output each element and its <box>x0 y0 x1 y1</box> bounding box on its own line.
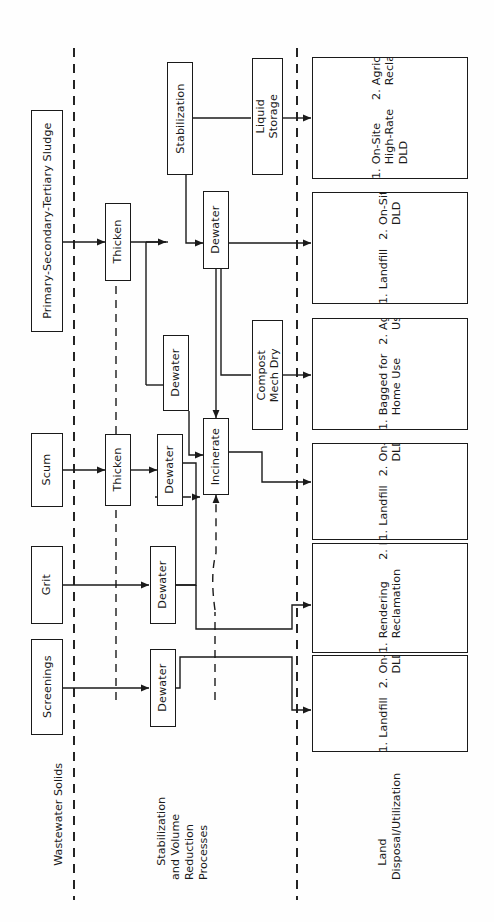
outcome-box-grit[interactable]: 1. Rendering Reclamation 2. Landfill <box>312 543 468 653</box>
process-box-dewater-grit[interactable]: Dewater <box>150 546 176 624</box>
list-item-number: 1. <box>377 529 390 540</box>
list-item: 1. Landfill <box>377 697 390 752</box>
process-label-liquid-storage: Liquid Storage <box>254 94 280 138</box>
list-item: 2. On-Site DLD <box>377 192 404 240</box>
list-item: 1. On-Site High-Rate DLD <box>370 109 410 179</box>
process-box-dewater-mid[interactable]: Dewater <box>163 335 189 411</box>
source-label-scum: Scum <box>40 454 53 486</box>
flow-diagram-canvas: Primary-Secondary-Tertiary Sludge Scum G… <box>0 0 494 922</box>
outcome-liquid-list: 1. On-Site High-Rate DLD 2. Agricultural… <box>370 57 410 179</box>
list-item-number: 1. <box>377 741 390 752</box>
list-item-number: 2. <box>377 549 390 560</box>
source-label-sludge: Primary-Secondary-Tertiary Sludge <box>40 123 53 319</box>
list-item-number: 1. <box>370 168 383 179</box>
zone-label-land-disposal: Land Disposal/Utilization <box>376 773 403 880</box>
outcome-box-compost[interactable]: 1. Bagged for Home Use 2. Agricultural U… <box>312 318 468 430</box>
process-box-dewater-stabilized[interactable]: Dewater <box>203 191 229 269</box>
list-item-number: 2. <box>377 229 390 240</box>
list-item-text: Landfill <box>377 543 390 545</box>
list-item-text: Bagged for Home Use <box>377 354 404 416</box>
process-box-thicken-scum[interactable]: Thicken <box>105 434 131 506</box>
zone-label-stabilization: Stabilization and Volume Reduction Proce… <box>155 797 210 880</box>
list-item: 2. On-Site DLD <box>377 655 404 688</box>
source-box-screenings[interactable]: Screenings <box>31 639 63 735</box>
zone-caption-stabilization: Stabilization and Volume Reduction Proce… <box>141 797 225 880</box>
process-box-stabilization[interactable]: Stabilization <box>167 62 193 175</box>
process-box-dewater-screenings[interactable]: Dewater <box>150 649 176 727</box>
outcome-box-ash[interactable]: 1. Landfill 2. On-Site DLD <box>312 443 468 540</box>
process-label-thicken-scum: Thicken <box>111 448 124 492</box>
outcome-box-dewatered[interactable]: 1. Landfill 2. On-Site DLD 3. Agricultur… <box>312 192 468 304</box>
list-item-text: On-Site DLD <box>377 192 404 225</box>
list-item-text: Rendering Reclamation <box>377 569 404 638</box>
list-item-number: 2. <box>377 334 390 345</box>
list-item-text: On-Site DLD <box>377 443 404 461</box>
list-item: 1. Bagged for Home Use <box>377 354 404 430</box>
list-item: 2. Agricultural Reclamation <box>370 57 397 100</box>
process-label-stabilization: Stabilization <box>173 83 186 153</box>
process-label-dewater-stabilized: Dewater <box>209 206 222 254</box>
outcome-box-screenings[interactable]: 1. Landfill 2. On-Site DLD <box>312 655 468 752</box>
outcome-compost-list: 1. Bagged for Home Use 2. Agricultural U… <box>377 318 404 430</box>
process-label-compost-mech-dry: Compost Mech Dry <box>254 348 280 402</box>
list-item: 2. Landfill <box>377 543 390 560</box>
list-item-text: Agricultural Reclamation <box>370 57 397 85</box>
list-item-text: On-Site DLD <box>377 655 404 673</box>
list-item-number: 1. <box>377 419 390 430</box>
source-box-scum[interactable]: Scum <box>31 433 63 507</box>
process-box-liquid-storage[interactable]: Liquid Storage <box>252 58 283 175</box>
list-item: 1. Landfill <box>377 485 390 540</box>
list-item-number: 2. <box>377 465 390 476</box>
process-label-thicken-sludge: Thicken <box>111 220 124 264</box>
outcome-grit-list: 1. Rendering Reclamation 2. Landfill <box>377 543 404 653</box>
process-label-dewater-screenings: Dewater <box>156 664 169 712</box>
process-label-dewater-grit: Dewater <box>156 561 169 609</box>
zone-label-wastewater-solids: Wastewater Solids <box>52 763 65 866</box>
list-item: 1. Rendering Reclamation <box>377 569 404 653</box>
list-item-text: Landfill <box>377 485 390 526</box>
list-item-number: 1. <box>377 642 390 653</box>
list-item-number: 2. <box>370 89 383 100</box>
zone-caption-wastewater-solids: Wastewater Solids <box>38 763 80 880</box>
list-item-number: 1. <box>377 293 390 304</box>
process-box-dewater-scum[interactable]: Dewater <box>157 434 183 506</box>
list-item: 2. Agricultural Use <box>377 318 404 345</box>
source-label-grit: Grit <box>40 574 53 595</box>
list-item-text: Agricultural Use <box>377 318 404 330</box>
outcome-box-liquid[interactable]: 1. On-Site High-Rate DLD 2. Agricultural… <box>312 57 468 179</box>
list-item: 1. Landfill <box>377 249 390 304</box>
process-label-dewater-mid: Dewater <box>169 349 182 397</box>
outcome-screenings-list: 1. Landfill 2. On-Site DLD <box>377 655 404 752</box>
list-item: 2. On-Site DLD <box>377 443 404 476</box>
process-label-incinerate: Incinerate <box>209 428 222 485</box>
process-box-thicken-sludge[interactable]: Thicken <box>105 203 131 281</box>
list-item-text: On-Site High-Rate DLD <box>370 109 410 164</box>
process-box-incinerate[interactable]: Incinerate <box>203 418 229 495</box>
process-box-compost-mech-dry[interactable]: Compost Mech Dry <box>252 320 283 430</box>
list-item-number: 2. <box>377 677 390 688</box>
outcome-ash-list: 1. Landfill 2. On-Site DLD <box>377 443 404 540</box>
source-label-screenings: Screenings <box>40 656 53 719</box>
process-label-dewater-scum: Dewater <box>163 446 176 494</box>
list-item-text: Landfill <box>377 697 390 738</box>
outcome-dewatered-list: 1. Landfill 2. On-Site DLD 3. Agricultur… <box>377 192 404 304</box>
list-item-text: Landfill <box>377 249 390 290</box>
zone-caption-land-disposal: Land Disposal/Utilization <box>362 773 418 880</box>
source-box-grit[interactable]: Grit <box>31 546 63 624</box>
source-box-sludge[interactable]: Primary-Secondary-Tertiary Sludge <box>31 110 63 332</box>
